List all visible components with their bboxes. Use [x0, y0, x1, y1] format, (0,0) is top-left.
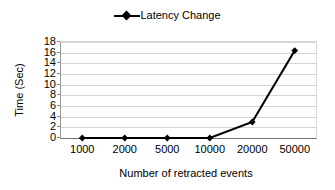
x-axis-tick-labels: 100020005000100002000050000 [60, 143, 316, 159]
x-axis-tick-label: 2000 [113, 143, 137, 156]
data-point-marker [79, 135, 86, 142]
y-axis-tick-label: 0 [20, 132, 56, 143]
x-axis-tick-label: 10000 [194, 143, 225, 156]
y-axis-tick-labels: 181614121086420 [20, 34, 56, 144]
legend-item-latency-change: Latency Change [114, 10, 220, 21]
chart-legend: Latency Change [0, 10, 335, 21]
x-axis-tick-label: 20000 [237, 143, 268, 156]
legend-item-label: Latency Change [140, 10, 220, 21]
line-chart: Latency Change Time (Sec) 18161412108642… [0, 0, 335, 190]
series-latency-change [61, 42, 316, 138]
data-point-marker [164, 135, 171, 142]
x-axis-tick-label: 50000 [279, 143, 310, 156]
x-axis-tick-label: 1000 [70, 143, 94, 156]
plot-area [60, 41, 317, 139]
data-point-marker [121, 135, 128, 142]
line-diamond-marker-icon [114, 10, 140, 21]
x-axis-tick-label: 5000 [155, 143, 179, 156]
x-axis-title: Number of retracted events [55, 167, 317, 180]
data-point-marker [206, 135, 213, 142]
